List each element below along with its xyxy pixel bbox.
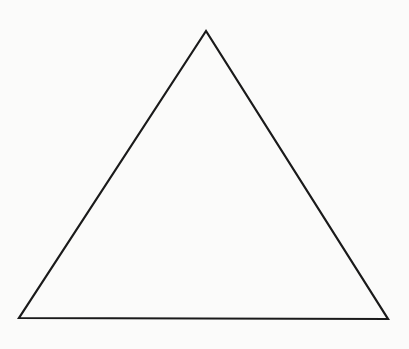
- diagram-svg: [0, 0, 409, 349]
- diagram-canvas: [0, 0, 409, 349]
- triangle-shape: [19, 31, 388, 319]
